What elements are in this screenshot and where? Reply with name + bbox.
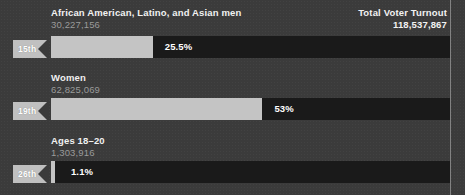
row-name: Ages 18–20 — [51, 135, 105, 147]
amendment-tag-15th: 15th — [13, 40, 47, 58]
page-title: African American, Latino, and Asian men — [51, 7, 331, 19]
right-divider-rule — [450, 0, 451, 195]
total-turnout-value: 118,537,867 — [358, 19, 447, 31]
bar-value-label: 25.5% — [165, 36, 193, 58]
bar-fill — [51, 161, 55, 183]
chart-header-right: Total Voter Turnout 118,537,867 — [358, 7, 447, 31]
bar-track: 25.5% — [51, 36, 450, 58]
chart-header-left: African American, Latino, and Asian men … — [51, 7, 331, 31]
amendment-tag-19th: 19th — [13, 102, 47, 120]
bar-fill — [51, 36, 153, 58]
amendment-tag-label: 19th — [13, 106, 36, 116]
bar-fill — [51, 98, 262, 120]
row-label-group: Ages 18–20 1,303,916 — [51, 135, 105, 159]
voter-turnout-chart: African American, Latino, and Asian men … — [0, 0, 465, 195]
amendment-tag-label: 15th — [13, 44, 36, 54]
ribbon-notch-icon — [38, 165, 47, 183]
bar-value-label: 1.1% — [71, 161, 93, 183]
bar-value-label: 53% — [274, 98, 293, 120]
row-label-group: Women 62,825,069 — [51, 72, 100, 96]
amendment-tag-label: 26th — [13, 169, 36, 179]
ribbon-notch-icon — [38, 40, 47, 58]
ribbon-notch-icon — [38, 102, 47, 120]
row-count: 1,303,916 — [51, 147, 105, 159]
total-turnout-label: Total Voter Turnout — [358, 7, 447, 19]
amendment-tag-26th: 26th — [13, 165, 47, 183]
row-count: 62,825,069 — [51, 84, 100, 96]
row-name: Women — [51, 72, 100, 84]
bar-track: 1.1% — [51, 161, 450, 183]
header-left-count: 30,227,156 — [51, 19, 331, 31]
bar-track: 53% — [51, 98, 450, 120]
